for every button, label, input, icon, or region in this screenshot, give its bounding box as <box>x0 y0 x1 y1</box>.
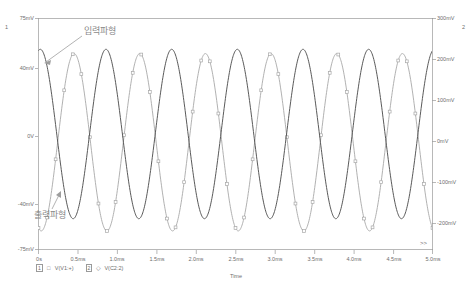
y-right-tick-5: -200mV <box>437 220 456 226</box>
y-right-tick-4: -100mV <box>437 179 456 185</box>
y-right-tick-3: 0mV <box>437 138 448 144</box>
x-tick-10: 5.0ms <box>418 256 448 262</box>
x-tick-9: 4.5ms <box>379 256 409 262</box>
scroll-right-marker[interactable]: >> <box>420 240 427 246</box>
legend-box-1[interactable]: 1 <box>36 264 43 272</box>
y-right-tick-0: 300mV <box>437 15 454 21</box>
y-left-tick-1: 40mV <box>2 65 34 71</box>
x-tick-0: 0s <box>26 256 52 262</box>
x-tick-2: 1.0ms <box>102 256 132 262</box>
legend: 1 □ V(V1:+) 2 ◇ V(C2:2) <box>36 264 123 272</box>
y-right-tick-2: 100mV <box>437 97 454 103</box>
legend-label-1[interactable]: V(V1:+) <box>55 265 74 271</box>
annotation-input-waveform: 입력파형 <box>84 24 116 37</box>
legend-box-2[interactable]: 2 <box>86 264 93 272</box>
legend-label-2[interactable]: V(C2:2) <box>104 265 123 271</box>
legend-symbol-1: □ <box>46 265 52 271</box>
y-left-axis-index: 1 <box>5 24 8 30</box>
x-tick-4: 2.0ms <box>181 256 211 262</box>
x-axis-title: Time <box>0 273 472 279</box>
x-tick-1: 0.5ms <box>63 256 93 262</box>
plot-canvas <box>0 0 472 291</box>
x-ticks <box>39 250 433 254</box>
legend-symbol-2: ◇ <box>95 265 101 271</box>
pspice-plot-window: 75mV 40mV 0V -40mV -75mV 1 300mV 200mV 1… <box>0 0 472 291</box>
y-left-tick-3: -40mV <box>2 201 34 207</box>
x-tick-6: 3.0ms <box>260 256 290 262</box>
y-left-tick-2: 0V <box>2 133 34 139</box>
plot-frame <box>38 18 433 250</box>
y-right-axis-index: 2 <box>462 24 465 30</box>
x-tick-8: 4.0ms <box>339 256 369 262</box>
trace-output-waveform <box>39 49 433 218</box>
x-tick-7: 3.5ms <box>300 256 330 262</box>
x-tick-5: 2.5ms <box>221 256 251 262</box>
annotation-output-waveform: 출력파형 <box>34 208 66 221</box>
y-right-tick-1: 200mV <box>437 56 454 62</box>
y-left-tick-0: 75mV <box>2 15 34 21</box>
y-left-tick-4: -75mV <box>2 246 34 252</box>
x-tick-3: 1.5ms <box>142 256 172 262</box>
